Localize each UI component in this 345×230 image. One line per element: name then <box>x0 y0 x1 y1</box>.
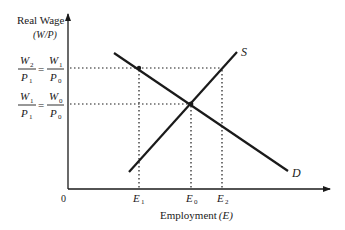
demand-curve <box>114 53 288 171</box>
svg-text:2: 2 <box>225 198 229 206</box>
svg-text:P: P <box>49 107 57 119</box>
origin-label: 0 <box>61 193 66 204</box>
svg-text:1: 1 <box>30 97 34 105</box>
svg-text:P: P <box>20 107 28 119</box>
svg-text:0: 0 <box>59 97 63 105</box>
wage-level-high-label: W 2 P 1 = W 1 P 0 <box>18 54 64 85</box>
supply-curve <box>129 52 237 172</box>
demand-label: D <box>291 166 301 180</box>
svg-text:W: W <box>49 54 59 66</box>
svg-text:P: P <box>49 71 57 83</box>
svg-text:E: E <box>216 192 224 204</box>
svg-text:E: E <box>132 192 140 204</box>
equilibrium-point <box>189 102 194 107</box>
svg-text:W: W <box>49 90 59 102</box>
tick-e1: E 1 <box>132 192 145 206</box>
svg-text:0: 0 <box>58 113 62 121</box>
svg-text:0: 0 <box>194 198 198 206</box>
svg-text:1: 1 <box>29 113 33 121</box>
svg-text:1: 1 <box>29 77 33 85</box>
x-axis-label: Employment(E) <box>160 209 233 222</box>
svg-text:=: = <box>38 63 44 75</box>
svg-text:W: W <box>20 54 30 66</box>
y-axis-variable: (W/P) <box>33 29 58 41</box>
svg-text:E: E <box>185 192 193 204</box>
tick-e0: E 0 <box>185 192 198 206</box>
supply-label: S <box>241 45 247 59</box>
svg-text:P: P <box>20 71 28 83</box>
point-e1-high-wage <box>137 66 141 70</box>
svg-text:1: 1 <box>141 198 145 206</box>
y-axis-label: Real Wage <box>17 14 65 26</box>
svg-text:W: W <box>20 90 30 102</box>
labor-market-diagram: Real Wage (W/P) S D W 2 P 1 = W 1 P 0 W … <box>0 0 345 230</box>
svg-text:0: 0 <box>58 77 62 85</box>
tick-e2: E 2 <box>216 192 229 206</box>
svg-text:2: 2 <box>30 61 34 69</box>
svg-text:1: 1 <box>59 61 63 69</box>
svg-text:=: = <box>38 99 44 111</box>
wage-level-low-label: W 1 P 1 = W 0 P 0 <box>18 90 64 121</box>
